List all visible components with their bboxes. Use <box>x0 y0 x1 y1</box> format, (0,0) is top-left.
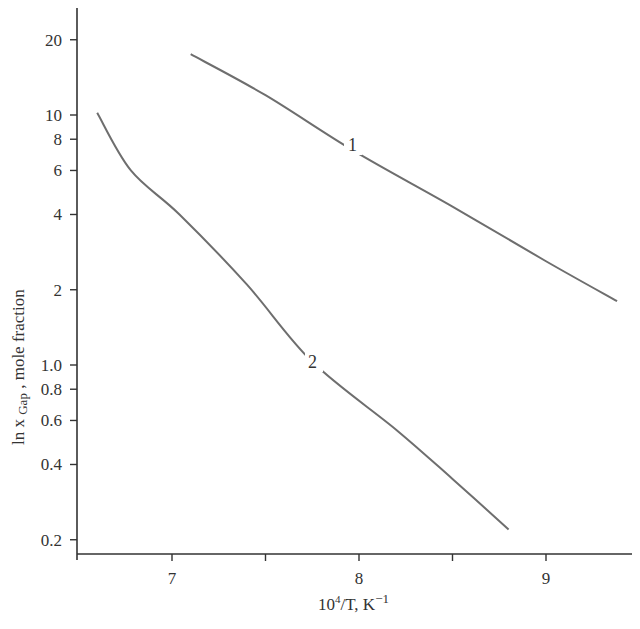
y-axis-title: ln x Gap , mole fraction <box>9 289 30 445</box>
x-tick-label: 9 <box>542 569 551 588</box>
curve-2 <box>97 113 508 530</box>
curve-2-label: 2 <box>305 350 323 372</box>
y-tick-label: 10 <box>45 106 62 125</box>
curve-1 <box>191 54 617 301</box>
y-tick-label: 0.6 <box>41 411 62 430</box>
axes <box>77 8 632 560</box>
y-ticks: 201086421.00.80.60.40.2 <box>41 31 77 550</box>
y-tick-label: 20 <box>45 31 62 50</box>
y-tick-label: 2 <box>54 281 63 300</box>
y-tick-label: 0.8 <box>41 380 62 399</box>
y-tick-label: 4 <box>54 205 63 224</box>
x-axis-title: 104/T, K−1 <box>318 591 389 614</box>
y-tick-label: 0.2 <box>41 531 62 550</box>
y-tick-label: 0.4 <box>41 455 63 474</box>
curves <box>97 54 617 529</box>
x-ticks: 789 <box>168 554 551 588</box>
chart: 201086421.00.80.60.40.2 789 1 2 104/T, K… <box>0 0 640 629</box>
y-tick-label: 1.0 <box>41 356 62 375</box>
y-tick-label: 6 <box>54 161 63 180</box>
curve-2-label-text: 2 <box>308 352 317 372</box>
x-tick-label: 7 <box>168 569 177 588</box>
x-tick-label: 8 <box>355 569 364 588</box>
curve-1-label-text: 1 <box>348 135 357 155</box>
y-tick-label: 8 <box>54 130 63 149</box>
curve-1-label: 1 <box>344 133 362 155</box>
